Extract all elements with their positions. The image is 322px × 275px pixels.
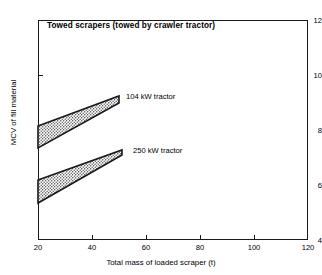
xtick-mark-80 — [200, 235, 201, 240]
series-label-104kw: 104 kW tractor — [126, 92, 175, 101]
x-axis-title: Total mass of loaded scraper (t) — [0, 258, 322, 267]
xtick-label-120: 120 — [302, 243, 315, 252]
chart-title: Towed scrapers (towed by crawler tractor… — [47, 21, 215, 30]
ytick-mark-10 — [38, 75, 43, 76]
xtick-mark-40 — [92, 235, 93, 240]
ytick-label-12: 12 — [296, 16, 322, 25]
series-label-250kw: 250 kW tractor — [133, 146, 182, 155]
ytick-mark-6 — [38, 185, 43, 186]
ytick-label-10: 10 — [296, 71, 322, 80]
xtick-label-60: 60 — [142, 243, 150, 252]
ytick-mark-12 — [38, 20, 43, 21]
xtick-mark-60 — [146, 235, 147, 240]
xtick-label-80: 80 — [196, 243, 204, 252]
ytick-label-6: 6 — [296, 181, 322, 190]
ytick-label-8: 8 — [296, 126, 322, 135]
xtick-mark-100 — [254, 235, 255, 240]
xtick-label-40: 40 — [88, 243, 96, 252]
chart-figure: Towed scrapers (towed by crawler tractor… — [0, 0, 322, 275]
plot-area-frame — [38, 20, 308, 240]
y-axis-title: MCV of fill material — [9, 53, 18, 173]
xtick-label-100: 100 — [248, 243, 261, 252]
xtick-label-20: 20 — [34, 243, 42, 252]
ytick-mark-8 — [38, 130, 43, 131]
